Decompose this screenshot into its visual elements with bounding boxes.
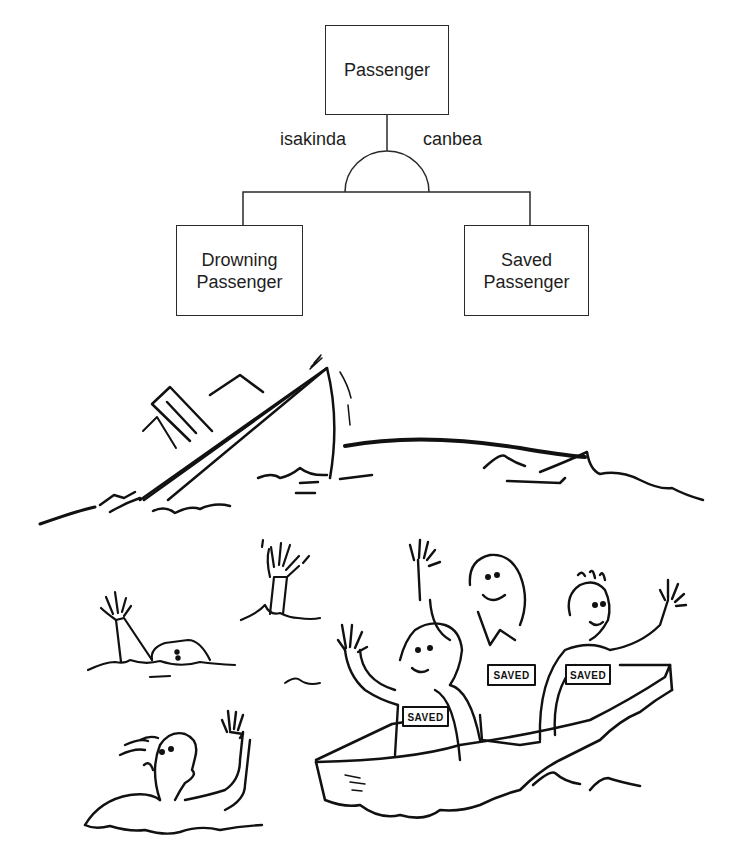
svg-text:SAVED: SAVED: [570, 670, 606, 681]
svg-text:SAVED: SAVED: [407, 712, 443, 723]
svg-text:SAVED: SAVED: [493, 670, 529, 681]
drowning-arm-middle-icon: [241, 540, 320, 620]
saved-badge-middle: SAVED: [488, 665, 535, 685]
node-drowning-line1: Drowning: [201, 249, 277, 271]
waves-right-icon: [484, 452, 703, 500]
children-connector-line: [243, 192, 530, 225]
node-passenger: Passenger: [325, 25, 449, 115]
node-saved-passenger: Saved Passenger: [464, 225, 589, 316]
saved-person-right-icon: [540, 571, 686, 740]
sinking-ship-icon: [40, 355, 372, 524]
illustration: SAVED SAVED SAVED: [40, 355, 703, 834]
relation-label-isakinda: isakinda: [280, 129, 346, 149]
and-arc: [345, 151, 429, 192]
node-drowning-passenger: Drowning Passenger: [176, 225, 303, 316]
diagram-and-illustration-canvas: SAVED SAVED SAVED: [0, 0, 729, 860]
drowning-person-left-icon: [88, 592, 235, 677]
drowning-person-bottom-icon: [85, 711, 262, 834]
horizon-line: [345, 439, 585, 457]
node-drowning-line2: Passenger: [196, 271, 282, 293]
saved-badge-left: SAVED: [403, 707, 448, 726]
relation-label-canbea: canbea: [423, 129, 482, 149]
small-wave-icon: [285, 679, 320, 684]
node-saved-line2: Passenger: [483, 271, 569, 293]
node-saved-line1: Saved: [501, 249, 552, 271]
node-passenger-label: Passenger: [344, 59, 430, 81]
saved-badge-right: SAVED: [566, 665, 610, 684]
